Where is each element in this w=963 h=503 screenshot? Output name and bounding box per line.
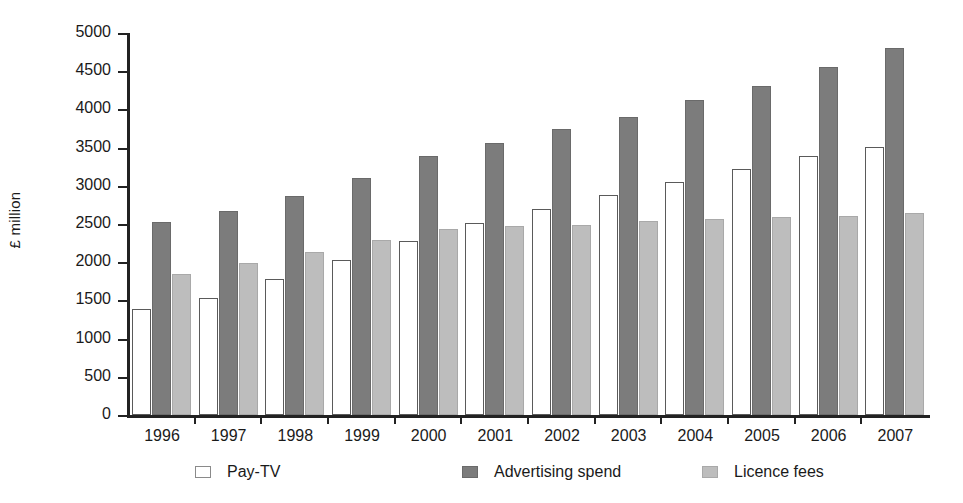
bar	[752, 86, 771, 415]
bar	[905, 213, 924, 415]
x-axis-tick	[327, 416, 329, 424]
bar	[172, 274, 191, 415]
y-axis-tick: 2000	[118, 262, 128, 264]
x-axis-label: 2000	[394, 427, 464, 445]
x-axis-tick	[527, 416, 529, 424]
y-axis-tick-label: 500	[84, 367, 111, 385]
x-axis-tick	[194, 416, 196, 424]
y-axis-tick-label: 2500	[75, 214, 111, 232]
x-axis-label: 2006	[794, 427, 864, 445]
bar	[352, 178, 371, 415]
x-axis-tick	[727, 416, 729, 424]
bar	[372, 240, 391, 415]
bar	[532, 209, 551, 415]
y-axis-tick: 0	[118, 415, 128, 417]
x-axis-label: 1999	[327, 427, 397, 445]
y-axis-tick: 2500	[118, 224, 128, 226]
bar	[619, 117, 638, 415]
y-axis-tick: 500	[118, 377, 128, 379]
bar	[885, 48, 904, 415]
y-axis-title: £ million	[6, 150, 23, 290]
y-axis-tick: 1500	[118, 300, 128, 302]
bar	[265, 279, 284, 415]
bar	[599, 195, 618, 415]
y-axis-tick: 4000	[118, 109, 128, 111]
dark-gray-square-swatch	[462, 466, 478, 478]
bar	[132, 309, 151, 415]
bar	[572, 225, 591, 415]
legend-label: Licence fees	[734, 463, 824, 481]
y-axis-tick-label: 0	[102, 405, 111, 423]
bar	[552, 129, 571, 415]
bar	[465, 223, 484, 415]
y-axis-tick-label: 1500	[75, 290, 111, 308]
y-axis-tick-label: 5000	[75, 23, 111, 41]
x-axis-label: 1996	[127, 427, 197, 445]
y-axis-tick-label: 2000	[75, 252, 111, 270]
legend-item-licence-fees[interactable]: Licence fees	[702, 461, 824, 483]
y-axis-tick: 3000	[118, 186, 128, 188]
x-axis-tick	[860, 416, 862, 424]
bar	[819, 67, 838, 415]
y-axis-tick-label: 1000	[75, 329, 111, 347]
x-axis-label: 2002	[527, 427, 597, 445]
legend-item-pay-tv[interactable]: Pay-TV	[195, 461, 280, 483]
bar	[772, 217, 791, 415]
x-axis-tick	[394, 416, 396, 424]
y-axis-tick-label: 4000	[75, 99, 111, 117]
chart-legend: Pay-TV Advertising spend Licence fees	[130, 461, 930, 487]
bar	[219, 211, 238, 415]
bar	[665, 182, 684, 415]
bar	[865, 147, 884, 415]
x-axis-label: 1998	[260, 427, 330, 445]
bar	[685, 100, 704, 415]
bar	[705, 219, 724, 415]
bar	[239, 263, 258, 415]
x-axis-tick	[594, 416, 596, 424]
bar	[305, 252, 324, 415]
legend-label: Advertising spend	[494, 463, 621, 481]
bar	[485, 143, 504, 415]
x-axis-label: 2003	[594, 427, 664, 445]
chart-page: £ million 050010001500200025003000350040…	[0, 0, 963, 503]
bar	[732, 169, 751, 415]
legend-label: Pay-TV	[227, 463, 280, 481]
x-axis-tick	[260, 416, 262, 424]
light-gray-square-swatch	[702, 466, 718, 478]
bar	[839, 216, 858, 415]
y-axis-tick-label: 3000	[75, 176, 111, 194]
bar	[285, 196, 304, 415]
bar	[399, 241, 418, 415]
bar	[505, 226, 524, 415]
bar	[639, 221, 658, 415]
bar	[419, 156, 438, 415]
bar	[332, 260, 351, 415]
y-axis-tick: 1000	[118, 339, 128, 341]
y-axis-tick: 3500	[118, 148, 128, 150]
x-axis-label: 2005	[727, 427, 797, 445]
y-axis-tick: 4500	[118, 71, 128, 73]
white-square-swatch	[195, 466, 211, 478]
y-axis-tick-label: 4500	[75, 61, 111, 79]
plot-area: 0500100015002000250030003500400045005000…	[130, 33, 930, 415]
bar	[439, 229, 458, 415]
x-axis-label: 2001	[460, 427, 530, 445]
x-axis-tick	[660, 416, 662, 424]
x-axis-tick	[794, 416, 796, 424]
x-axis-tick	[460, 416, 462, 424]
y-axis-tick: 5000	[118, 33, 128, 35]
bar	[152, 222, 171, 415]
bar	[799, 156, 818, 415]
bar	[199, 298, 218, 415]
x-axis-label: 2004	[660, 427, 730, 445]
legend-item-advertising-spend[interactable]: Advertising spend	[462, 461, 621, 483]
x-axis-label: 1997	[194, 427, 264, 445]
x-axis-label: 2007	[860, 427, 930, 445]
y-axis-tick-label: 3500	[75, 138, 111, 156]
